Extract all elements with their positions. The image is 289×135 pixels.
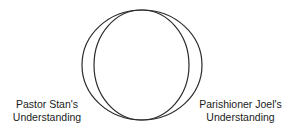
parishioner-joel-label-line2: Understanding — [192, 111, 289, 124]
pastor-stan-label-line1: Pastor Stan's — [0, 98, 94, 111]
pastor-stan-label-line2: Understanding — [0, 111, 94, 124]
pastor-stan-label: Pastor Stan's Understanding — [0, 98, 94, 124]
outer-circle — [82, 10, 202, 120]
parishioner-joel-label-line1: Parishioner Joel's — [192, 98, 289, 111]
inner-circle — [94, 10, 189, 120]
parishioner-joel-label: Parishioner Joel's Understanding — [192, 98, 289, 124]
